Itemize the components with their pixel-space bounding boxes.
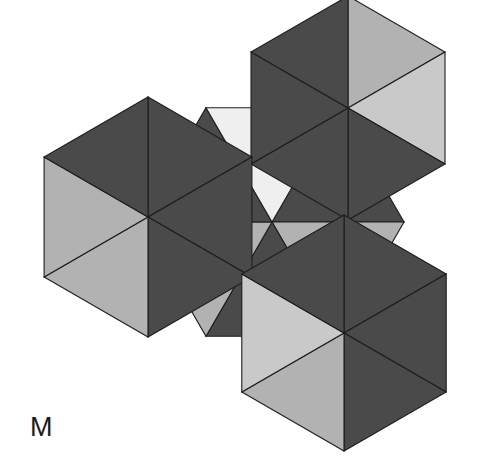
figure-root: M: [0, 0, 484, 458]
hexagon-tiling-figure: [0, 0, 484, 458]
panel-label: M: [30, 414, 53, 441]
